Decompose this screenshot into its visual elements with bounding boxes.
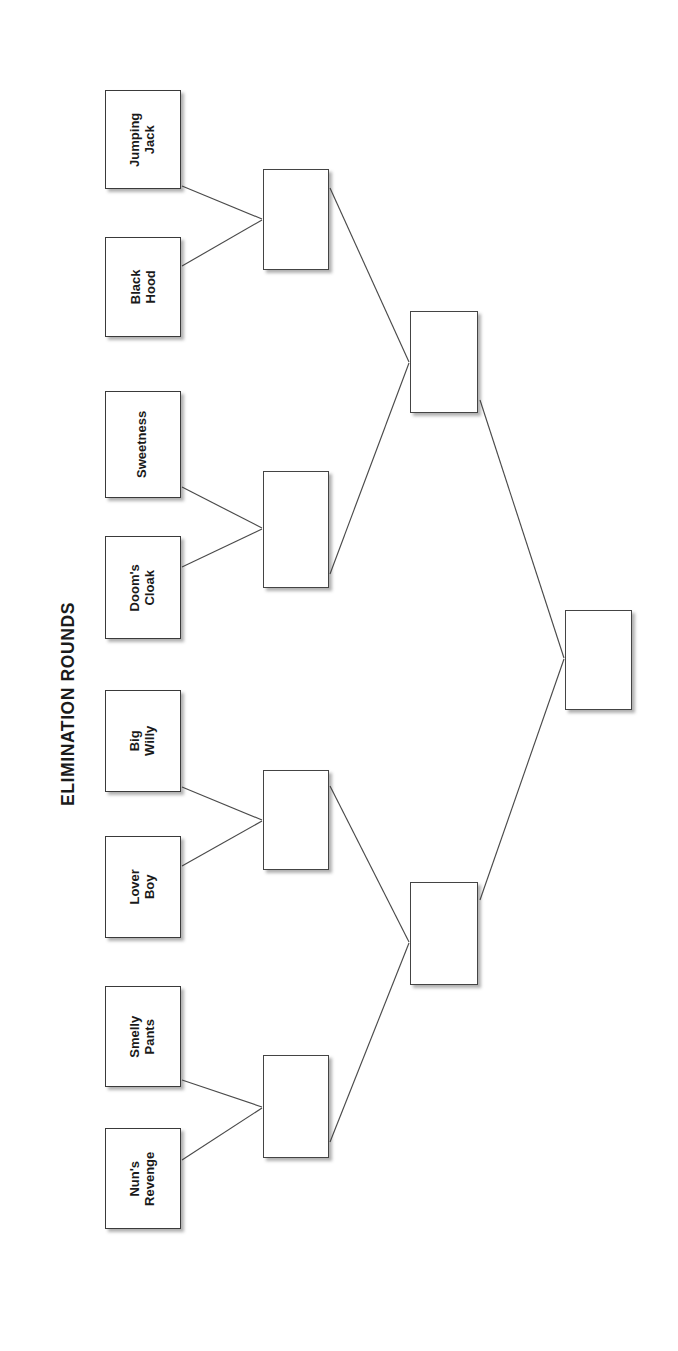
competitor-name-line1: Jumping <box>127 112 142 166</box>
bracket-node-r2-3[interactable] <box>263 770 329 870</box>
competitor-name-line2: Pants <box>143 1016 158 1058</box>
connector-r2-1 <box>330 188 409 362</box>
competitor-name-line2: Cloak <box>143 564 158 611</box>
competitor-name-line2: Hood <box>143 270 158 305</box>
competitor-name-line1: Doom's <box>127 564 142 611</box>
bracket-node-r1-4[interactable]: Doom's Cloak <box>105 536 181 639</box>
connector-r1-6 <box>182 821 262 866</box>
competitor-name: Sweetness <box>136 411 151 478</box>
competitor-name: Lover Boy <box>128 869 158 904</box>
connector-r1-7 <box>182 1080 262 1107</box>
connector-r2-3 <box>330 786 409 942</box>
bracket-page: ELIMINATION ROUNDS Jumping Jack Black Ho… <box>0 0 678 1351</box>
bracket-node-r1-7[interactable]: Smelly Pants <box>105 986 181 1087</box>
competitor-name-line2: Boy <box>143 869 158 904</box>
competitor-name: Black Hood <box>128 270 158 305</box>
page-title: ELIMINATION ROUNDS <box>60 602 78 806</box>
competitor-name: Smelly Pants <box>128 1016 158 1058</box>
bracket-node-r2-1[interactable] <box>263 169 329 270</box>
connector-r1-8 <box>182 1108 262 1160</box>
bracket-node-final[interactable] <box>565 610 632 710</box>
competitor-name: Big Willy <box>128 726 158 756</box>
competitor-name-line1: Big <box>127 731 142 752</box>
bracket-node-r1-2[interactable]: Black Hood <box>105 237 181 337</box>
competitor-name-line2: Jack <box>143 112 158 166</box>
bracket-node-r1-8[interactable]: Nun's Revenge <box>105 1128 181 1229</box>
competitor-name: Doom's Cloak <box>128 564 158 611</box>
connector-r1-5 <box>182 787 262 820</box>
connector-r1-4 <box>182 529 262 567</box>
bracket-node-r1-5[interactable]: Big Willy <box>105 690 181 792</box>
competitor-name-line1: Nun's <box>127 1161 142 1197</box>
connector-r1-2 <box>182 220 262 266</box>
competitor-name-line2: Willy <box>143 726 158 756</box>
connector-r1-1 <box>182 186 262 219</box>
competitor-name-line1: Sweetness <box>135 411 150 478</box>
competitor-name: Jumping Jack <box>128 112 158 166</box>
bracket-node-r1-3[interactable]: Sweetness <box>105 391 181 498</box>
connector-r1-3 <box>182 487 262 528</box>
connector-r3-1 <box>480 400 564 658</box>
bracket-node-r2-4[interactable] <box>263 1055 329 1158</box>
bracket-node-r2-2[interactable] <box>263 471 329 588</box>
connector-r2-4 <box>330 943 409 1142</box>
competitor-name-line1: Smelly <box>127 1016 142 1058</box>
competitor-name-line1: Lover <box>127 869 142 904</box>
bracket-node-r3-2[interactable] <box>410 882 478 985</box>
competitor-name: Nun's Revenge <box>128 1151 158 1205</box>
competitor-name-line1: Black <box>127 270 142 305</box>
connector-r2-2 <box>330 363 409 574</box>
competitor-name-line2: Revenge <box>143 1151 158 1205</box>
connector-r3-2 <box>480 659 564 900</box>
bracket-node-r1-6[interactable]: Lover Boy <box>105 836 181 938</box>
bracket-node-r1-1[interactable]: Jumping Jack <box>105 90 181 189</box>
bracket-node-r3-1[interactable] <box>410 311 478 413</box>
